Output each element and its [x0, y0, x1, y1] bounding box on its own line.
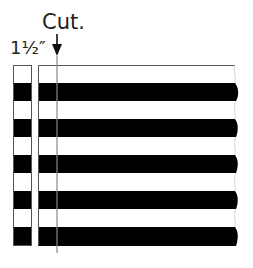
cut-arrow-icon	[52, 34, 62, 56]
strip-set-fabric	[38, 65, 238, 246]
cut-strip	[13, 65, 32, 246]
strip-set-diagram	[0, 0, 253, 268]
